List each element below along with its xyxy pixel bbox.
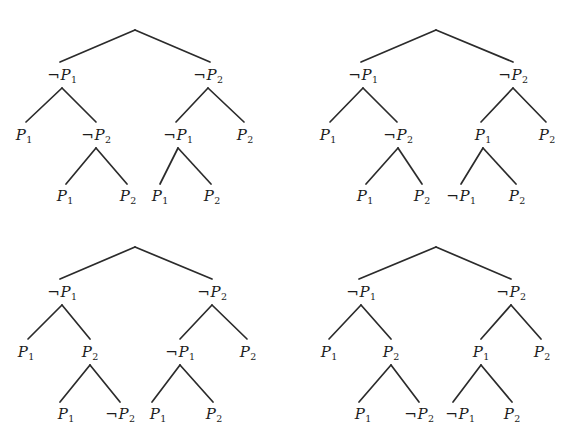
- node-not-p1-leaf-c: ¬P1: [446, 189, 476, 204]
- proposition-subscript: 2: [424, 195, 430, 206]
- negation-symbol: ¬: [346, 283, 359, 301]
- negation-symbol: ¬: [496, 283, 509, 301]
- proposition-subscript: 1: [370, 291, 376, 302]
- node-p1-leaf-c: P1: [152, 189, 168, 204]
- edge-l2right-to-c: [180, 305, 212, 339]
- node-not-p1-level3-c: ¬P1: [163, 128, 193, 143]
- edge-l2left-to-b: [62, 305, 90, 339]
- proposition-symbol: P: [534, 343, 544, 361]
- node-p2-leaf-b: P2: [414, 189, 430, 204]
- proposition-symbol: P: [120, 187, 130, 205]
- edge-root-to-right: [135, 247, 212, 279]
- proposition-subscript: 2: [514, 413, 520, 424]
- node-not-p2-level3-b: ¬P2: [81, 128, 111, 143]
- node-p2-leaf-b: P2: [120, 189, 136, 204]
- edge-l2left-to-b: [62, 88, 96, 122]
- negation-symbol: ¬: [163, 126, 176, 144]
- negation-symbol: ¬: [446, 187, 459, 205]
- edge-root-to-right: [436, 30, 513, 62]
- proposition-subscript: 2: [130, 195, 136, 206]
- proposition-subscript: 2: [221, 291, 227, 302]
- proposition-subscript: 1: [367, 195, 373, 206]
- edge-l2left-to-b: [363, 88, 397, 122]
- tree-edges: [291, 224, 582, 448]
- negation-symbol: ¬: [445, 405, 458, 423]
- proposition-subscript: 2: [250, 351, 256, 362]
- proposition-symbol: P: [361, 66, 371, 84]
- negation-symbol: ¬: [404, 405, 417, 423]
- node-not-p2-leaf-b: ¬P2: [105, 407, 135, 422]
- proposition-subscript: 2: [522, 74, 528, 85]
- node-p2-level3-d: P2: [240, 345, 256, 360]
- proposition-subscript: 1: [67, 195, 73, 206]
- proposition-symbol: P: [178, 343, 188, 361]
- node-p2-level3-d: P2: [534, 345, 550, 360]
- proposition-symbol: P: [18, 343, 28, 361]
- proposition-subscript: 1: [330, 134, 336, 145]
- proposition-symbol: P: [118, 405, 128, 423]
- proposition-symbol: P: [210, 283, 220, 301]
- tree-edges: [0, 0, 291, 224]
- proposition-subscript: 1: [71, 74, 77, 85]
- proposition-symbol: P: [396, 126, 406, 144]
- proposition-subscript: 2: [217, 74, 223, 85]
- proposition-symbol: P: [240, 343, 250, 361]
- proposition-symbol: P: [206, 66, 216, 84]
- negation-symbol: ¬: [383, 126, 396, 144]
- negation-symbol: ¬: [197, 283, 210, 301]
- edge-b-to-leaf-a: [359, 365, 391, 402]
- negation-symbol: ¬: [348, 66, 361, 84]
- proposition-subscript: 1: [470, 195, 476, 206]
- negation-symbol: ¬: [47, 66, 60, 84]
- edge-l2right-to-c: [481, 305, 511, 339]
- node-p2-leaf-d: P2: [509, 189, 525, 204]
- node-not-p2-level2-right: ¬P2: [498, 68, 528, 83]
- tree-edges: [291, 0, 582, 224]
- proposition-symbol: P: [504, 405, 514, 423]
- tree-edges: [0, 224, 291, 448]
- proposition-subscript: 1: [331, 351, 337, 362]
- proposition-subscript: 1: [187, 134, 193, 145]
- proposition-subscript: 1: [162, 195, 168, 206]
- node-p1-level3-a: P1: [321, 345, 337, 360]
- node-not-p2-level3-b: ¬P2: [383, 128, 413, 143]
- node-not-p1-level2-left: ¬P1: [346, 285, 376, 300]
- negation-symbol: ¬: [81, 126, 94, 144]
- bottom-left-tree: ¬P1¬P2P1P2¬P1P2P1¬P2P1P2: [0, 224, 291, 448]
- proposition-symbol: P: [473, 343, 483, 361]
- negation-symbol: ¬: [105, 405, 118, 423]
- proposition-subscript: 1: [372, 74, 378, 85]
- edge-root-to-right: [135, 30, 210, 62]
- node-not-p2-level2-right: ¬P2: [496, 285, 526, 300]
- proposition-symbol: P: [509, 187, 519, 205]
- edge-l2right-to-d: [513, 88, 546, 122]
- edge-b-to-leaf-b: [90, 365, 120, 402]
- node-p1-level3-c: P1: [473, 345, 489, 360]
- proposition-symbol: P: [94, 126, 104, 144]
- node-not-p2-level2-right: ¬P2: [197, 285, 227, 300]
- node-not-p2-leaf-b: ¬P2: [404, 407, 434, 422]
- edge-b-to-leaf-a: [366, 148, 398, 184]
- proposition-symbol: P: [321, 343, 331, 361]
- proposition-symbol: P: [152, 187, 162, 205]
- edge-l2left-to-a: [26, 88, 62, 122]
- proposition-symbol: P: [206, 405, 216, 423]
- edge-root-to-left: [60, 30, 135, 62]
- proposition-subscript: 2: [247, 134, 253, 145]
- edge-c-to-leaf-d: [180, 365, 213, 402]
- node-p1-level3-a: P1: [16, 128, 32, 143]
- proposition-subscript: 2: [216, 413, 222, 424]
- node-not-p1-leaf-c: ¬P1: [445, 407, 475, 422]
- proposition-symbol: P: [60, 66, 70, 84]
- node-not-p2-level2-right: ¬P2: [193, 68, 223, 83]
- node-not-p1-level2-left: ¬P1: [47, 285, 77, 300]
- proposition-subscript: 2: [92, 351, 98, 362]
- node-p1-level3-a: P1: [18, 345, 34, 360]
- proposition-subscript: 1: [189, 351, 195, 362]
- node-p1-leaf-a: P1: [57, 189, 73, 204]
- proposition-symbol: P: [355, 405, 365, 423]
- proposition-subscript: 2: [407, 134, 413, 145]
- proposition-symbol: P: [60, 283, 70, 301]
- proposition-symbol: P: [414, 187, 424, 205]
- node-p2-level3-d: P2: [237, 128, 253, 143]
